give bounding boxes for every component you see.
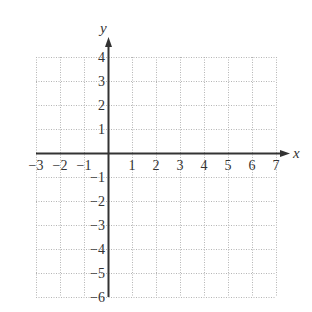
y-tick-label: 2 (98, 98, 105, 113)
y-tick-labels: 4321−1−2−3−4−5−6 (90, 50, 105, 305)
x-tick-label: 7 (273, 158, 280, 173)
y-tick-label: 3 (98, 74, 105, 89)
x-tick-label: 4 (201, 158, 208, 173)
x-tick-label: −3 (29, 158, 44, 173)
x-tick-label: 1 (129, 158, 136, 173)
y-tick-label: −3 (90, 218, 105, 233)
x-tick-label: −2 (53, 158, 68, 173)
x-tick-label: 5 (225, 158, 232, 173)
y-tick-label: 1 (98, 122, 105, 137)
y-tick-label: −6 (90, 290, 105, 305)
y-tick-label: 4 (98, 50, 105, 65)
coordinate-plane: x y −3−2−11234567 4321−1−2−3−4−5−6 (0, 0, 312, 312)
x-axis-label: x (292, 145, 300, 161)
x-axis-arrow-icon (280, 150, 290, 157)
y-axis-label: y (98, 20, 107, 36)
x-tick-label: 6 (249, 158, 256, 173)
grid-lines (36, 57, 277, 298)
y-tick-label: −2 (90, 194, 105, 209)
y-tick-label: −5 (90, 266, 105, 281)
y-tick-label: −4 (90, 242, 105, 257)
y-axis-arrow-icon (105, 37, 112, 47)
x-tick-labels: −3−2−11234567 (29, 158, 280, 173)
y-tick-label: −1 (90, 170, 105, 185)
x-tick-label: 3 (177, 158, 184, 173)
x-tick-label: 2 (153, 158, 160, 173)
